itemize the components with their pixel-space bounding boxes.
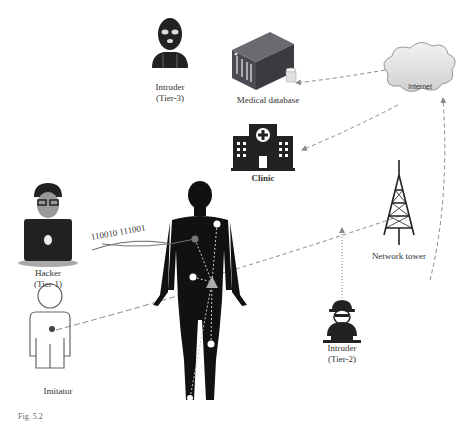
- hacker-tier1-name: Hacker: [28, 268, 68, 279]
- hacker-tier1-tier: (Tier-1): [28, 279, 68, 290]
- imitator-icon: [30, 284, 70, 368]
- internet-to-clinic-line: [302, 105, 398, 150]
- clinic-label: Clinic: [245, 173, 281, 184]
- figure-caption: Fig. 5.2: [18, 412, 43, 421]
- network-tower-icon: [384, 160, 414, 245]
- imitator-label: Imitator: [38, 386, 78, 397]
- body-to-tower-line: [216, 216, 400, 275]
- intruder-tier3-tier: (Tier-3): [150, 93, 190, 104]
- intruder-tier2-tier: (Tier-2): [322, 354, 362, 365]
- connection-lines: [56, 70, 445, 330]
- diagram-canvas: [0, 0, 465, 427]
- hacker-tier1-icon: [18, 183, 78, 267]
- intruder-tier3-label: Intruder (Tier-3): [150, 82, 190, 104]
- human-body-silhouette: [153, 181, 247, 400]
- intruder-tier2-label: Intruder (Tier-2): [322, 343, 362, 365]
- internet-to-database-line: [296, 70, 385, 83]
- intruder-tier2-name: Intruder: [322, 343, 362, 354]
- intruder-tier2-icon: [323, 300, 361, 343]
- intruder-tier3-name: Intruder: [150, 82, 190, 93]
- tower-to-internet-line: [430, 98, 445, 280]
- internet-label: Internet: [400, 81, 440, 92]
- intruder-tier3-icon: [152, 18, 188, 68]
- medical-database-icon: [232, 32, 296, 90]
- medical-database-label: Medical database: [228, 95, 308, 106]
- hacker-tier1-label: Hacker (Tier-1): [28, 268, 68, 290]
- network-tower-label: Network tower: [366, 251, 432, 262]
- clinic-icon: [231, 124, 295, 171]
